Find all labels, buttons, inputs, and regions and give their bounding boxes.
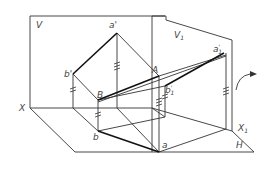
label-v1-plane: V1 xyxy=(174,30,184,41)
label-x-axis: X xyxy=(18,103,26,113)
b-prime-to-B xyxy=(73,74,98,100)
rotation-arrow-icon xyxy=(236,71,257,90)
x-to-b xyxy=(73,108,98,131)
b1-to-x1 xyxy=(152,108,165,117)
label-a1-prime: a'1 xyxy=(213,43,222,55)
label-a: a xyxy=(162,140,168,150)
label-b: b xyxy=(93,132,99,142)
label-x1-axis: X1 xyxy=(237,123,248,134)
x1-axis xyxy=(152,108,232,131)
label-b-prime: b' xyxy=(64,69,72,79)
tick-marks-a-prime xyxy=(114,62,120,70)
label-b1-prime: b'1 xyxy=(165,84,174,96)
tick-marks-A xyxy=(156,98,162,106)
label-h-plane: H xyxy=(236,140,243,150)
segment-ab xyxy=(98,131,159,152)
segment-AB xyxy=(98,76,159,100)
projection-diagram: V V1 a' b' A B b'1 a'1 X X1 b a H xyxy=(0,0,273,173)
segment-a1-b1-prime xyxy=(165,53,224,86)
label-v-plane: V xyxy=(36,20,43,30)
a-to-x1 xyxy=(159,129,226,152)
v1-plane-outline xyxy=(152,16,232,131)
label-B: B xyxy=(97,90,103,100)
B-to-b1-prime xyxy=(98,86,165,100)
segment-a-prime-b-prime xyxy=(73,33,117,74)
label-A: A xyxy=(151,65,158,75)
label-a-prime: a' xyxy=(109,20,117,30)
tick-marks-a1-prime xyxy=(223,87,229,95)
b-to-x1 xyxy=(98,117,165,131)
